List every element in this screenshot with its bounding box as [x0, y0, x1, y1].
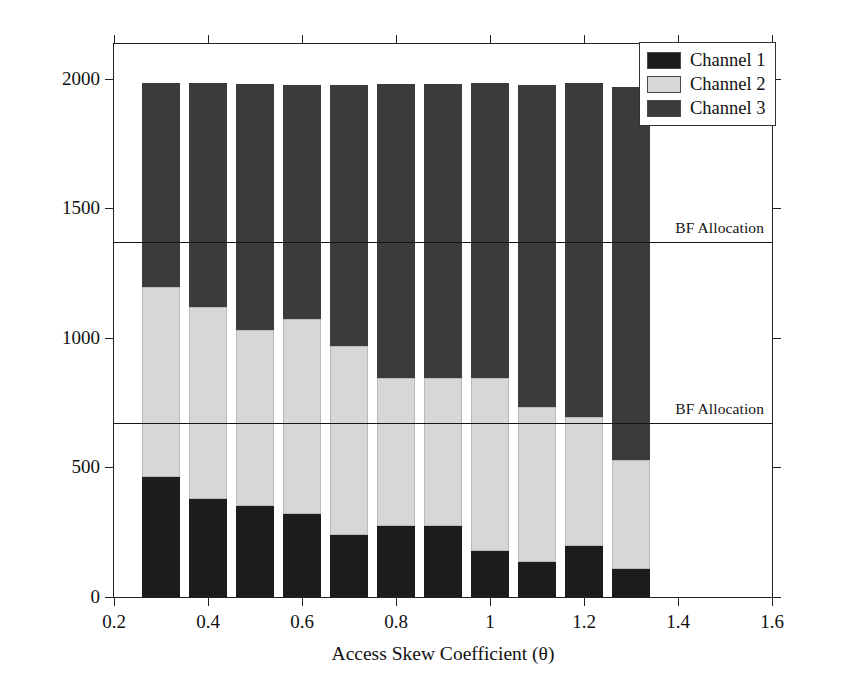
bar-segment-channel-1 [377, 526, 415, 597]
legend-item[interactable]: Channel 1 [647, 48, 766, 72]
legend-label: Channel 1 [690, 51, 766, 70]
bar-segment-channel-2 [377, 378, 415, 526]
legend-swatch-icon [647, 52, 681, 69]
x-axis-tick-label: 1.6 [760, 611, 784, 633]
x-axis-tick [396, 597, 397, 606]
reference-line-label: BF Allocation [675, 219, 764, 237]
bar-segment-channel-3 [377, 84, 415, 378]
y-axis-tick [105, 208, 114, 209]
x-axis-tick [678, 597, 679, 606]
x-axis-tick-label: 1 [485, 611, 495, 633]
bar-segment-channel-3 [283, 85, 321, 318]
y-axis-tick [105, 467, 114, 468]
y-axis-tick-right [772, 208, 781, 209]
x-axis-tick-top [584, 35, 585, 44]
y-axis-tick-label: 2000 [62, 68, 100, 90]
bar-segment-channel-2 [471, 378, 509, 551]
chart-legend: Channel 1Channel 2Channel 3 [639, 42, 776, 126]
bar-segment-channel-2 [330, 346, 368, 536]
reference-line-label: BF Allocation [675, 400, 764, 418]
bar-segment-channel-3 [236, 84, 274, 330]
legend-swatch-icon [647, 100, 681, 117]
bar-segment-channel-2 [142, 287, 180, 477]
bar-segment-channel-1 [565, 546, 603, 597]
legend-swatch-icon [647, 76, 681, 93]
bar-segment-channel-1 [424, 526, 462, 597]
bar-segment-channel-3 [471, 83, 509, 379]
reference-line-bf-allocation [114, 423, 772, 424]
y-axis-tick-right [772, 338, 781, 339]
bar-segment-channel-3 [424, 84, 462, 377]
x-axis-tick [114, 597, 115, 606]
x-axis-tick [490, 597, 491, 606]
bar-segment-channel-3 [565, 83, 603, 417]
bar-segment-channel-2 [189, 307, 227, 499]
x-axis-tick-label: 0.6 [290, 611, 314, 633]
bar-segment-channel-1 [330, 535, 368, 597]
y-axis-tick-label: 1500 [62, 197, 100, 219]
x-axis-tick-label: 1.4 [666, 611, 690, 633]
bar-segment-channel-1 [471, 551, 509, 597]
bar-segment-channel-2 [565, 417, 603, 547]
legend-item[interactable]: Channel 3 [647, 96, 766, 120]
y-axis-tick-label: 500 [72, 456, 101, 478]
y-axis-tick [105, 79, 114, 80]
bar-segment-channel-1 [236, 506, 274, 597]
x-axis-tick-top [490, 35, 491, 44]
x-axis-tick-top [208, 35, 209, 44]
bar-segment-channel-1 [283, 514, 321, 597]
y-axis-tick [105, 597, 114, 598]
y-axis-tick [105, 338, 114, 339]
bar-segment-channel-2 [424, 378, 462, 526]
x-axis-tick [208, 597, 209, 606]
x-axis-tick-top [302, 35, 303, 44]
bar-segment-channel-1 [189, 499, 227, 597]
legend-label: Channel 2 [690, 75, 766, 94]
bar-segment-channel-1 [518, 562, 556, 597]
chart-figure: Total Number of Items (D) BF AllocationB… [0, 0, 847, 690]
x-axis-tick [302, 597, 303, 606]
bar-segment-channel-3 [518, 85, 556, 406]
x-axis-tick-top [114, 35, 115, 44]
bar-segment-channel-3 [142, 83, 180, 287]
bar-segment-channel-3 [612, 87, 650, 460]
plot-area: BF AllocationBF Allocation 0500100015002… [113, 43, 773, 598]
bar-segment-channel-2 [236, 330, 274, 506]
bar-segment-channel-1 [142, 477, 180, 597]
bar-segment-channel-1 [612, 569, 650, 597]
x-axis-tick-label: 0.8 [384, 611, 408, 633]
x-axis-title: Access Skew Coefficient (θ) [113, 643, 773, 665]
y-axis-tick-right [772, 467, 781, 468]
plot-inner: BF AllocationBF Allocation [114, 44, 772, 597]
x-axis-tick-label: 0.2 [102, 611, 126, 633]
bar-segment-channel-2 [518, 407, 556, 562]
y-axis-tick-label: 0 [91, 586, 101, 608]
x-axis-tick-label: 0.4 [196, 611, 220, 633]
bar-segment-channel-2 [612, 460, 650, 569]
legend-item[interactable]: Channel 2 [647, 72, 766, 96]
y-axis-tick-right [772, 597, 781, 598]
bar-segment-channel-3 [189, 83, 227, 307]
y-axis-tick-label: 1000 [62, 327, 100, 349]
x-axis-tick-label: 1.2 [572, 611, 596, 633]
x-axis-tick-top [396, 35, 397, 44]
bar-segment-channel-2 [283, 319, 321, 515]
x-axis-tick [584, 597, 585, 606]
x-axis-tick [772, 597, 773, 606]
reference-line-bf-allocation [114, 242, 772, 243]
bar-segment-channel-3 [330, 85, 368, 345]
legend-label: Channel 3 [690, 99, 766, 118]
